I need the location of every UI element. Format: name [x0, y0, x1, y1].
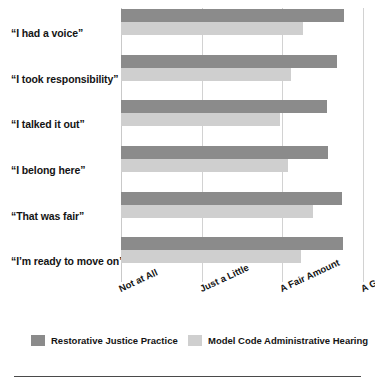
bar-model-code-administrative-hearing: [121, 113, 280, 126]
category-label: “I had a voice”: [3, 27, 121, 39]
category-label: “That was fair”: [3, 210, 121, 222]
plot-area: [121, 8, 363, 282]
bar-group: [121, 55, 363, 81]
legend-label: Model Code Administrative Hearing: [208, 335, 368, 346]
legend-swatch-icon: [188, 335, 202, 346]
bar-group: [121, 146, 363, 172]
bar-model-code-administrative-hearing: [121, 159, 288, 172]
gridline-3: [363, 8, 364, 282]
bar-group: [121, 9, 363, 35]
category-axis: “I had a voice”“I took responsibility”“I…: [0, 8, 121, 282]
bar-chart: “I had a voice”“I took responsibility”“I…: [0, 0, 375, 389]
bar-restorative-justice-practice: [121, 9, 344, 22]
bar-restorative-justice-practice: [121, 192, 342, 205]
x-axis-tick-labels: Not at AllJust a LittleA Fair AmountA Gr…: [0, 284, 375, 330]
bar-model-code-administrative-hearing: [121, 68, 291, 81]
chart-legend: Restorative Justice Practice Model Code …: [0, 333, 375, 353]
legend-item-model-code-administrative-hearing: Model Code Administrative Hearing: [188, 333, 368, 347]
category-label: “I belong here”: [3, 164, 121, 176]
bar-group: [121, 100, 363, 126]
footer-divider: [14, 376, 361, 377]
x-tick-label: A Great Amount: [359, 284, 364, 294]
bar-model-code-administrative-hearing: [121, 205, 313, 218]
category-label: “I talked it out”: [3, 118, 121, 130]
bar-restorative-justice-practice: [121, 146, 328, 159]
x-tick-label: Just a Little: [198, 284, 203, 294]
category-label: “I took responsibility”: [3, 73, 121, 85]
x-tick-label: Not at All: [117, 284, 122, 294]
bar-model-code-administrative-hearing: [121, 250, 301, 263]
bar-restorative-justice-practice: [121, 237, 343, 250]
bar-model-code-administrative-hearing: [121, 22, 303, 35]
legend-swatch-icon: [31, 335, 45, 346]
category-label: “I’m ready to move on”: [3, 255, 121, 267]
x-tick-label: A Fair Amount: [278, 284, 283, 294]
bar-group: [121, 237, 363, 263]
legend-item-restorative-justice-practice: Restorative Justice Practice: [31, 333, 178, 347]
bar-restorative-justice-practice: [121, 100, 327, 113]
bar-restorative-justice-practice: [121, 55, 337, 68]
bar-group: [121, 192, 363, 218]
legend-label: Restorative Justice Practice: [51, 335, 178, 346]
